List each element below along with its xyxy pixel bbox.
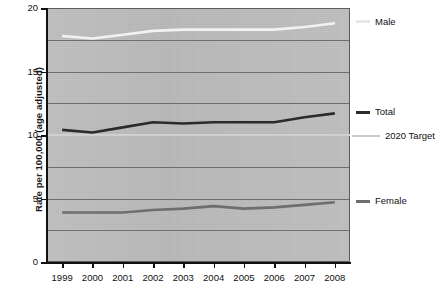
x-tick-mark-2006	[274, 263, 276, 268]
x-tick-mark-2004	[214, 263, 216, 268]
x-tick-mark-2000	[92, 263, 94, 268]
gridline-7-5	[47, 167, 350, 168]
legend-label: 2020 Target	[385, 131, 435, 141]
legend-item-total[interactable]: Total	[356, 107, 395, 117]
legend-label: Male	[375, 17, 396, 27]
y-axis-line	[46, 8, 48, 263]
y-tick-label-10: 10	[0, 129, 38, 140]
x-tick-mark-2001	[123, 263, 125, 268]
plot-border-right	[349, 8, 350, 262]
y-tick-label-20: 20	[0, 2, 38, 13]
x-tick-mark-2003	[183, 263, 185, 268]
legend-item-2020-target[interactable]: 2020 Target	[352, 131, 435, 141]
gridline-2-5	[47, 230, 350, 231]
gridline-10	[47, 135, 350, 136]
legend-swatch-female-icon	[356, 200, 370, 203]
plot-border-top	[47, 8, 350, 9]
gridline-12-5	[47, 103, 350, 104]
legend-label: Total	[375, 107, 395, 117]
gridline-17-5	[47, 40, 350, 41]
y-tick-label-0: 0	[0, 256, 38, 267]
y-tick-label-15: 15	[0, 66, 38, 77]
legend-label: Female	[375, 196, 407, 206]
plot-area	[47, 8, 350, 262]
legend-item-female[interactable]: Female	[356, 196, 407, 206]
legend-item-male[interactable]: Male	[356, 17, 396, 27]
legend-swatch-total-icon	[356, 111, 370, 114]
x-tick-mark-2002	[153, 263, 155, 268]
legend-swatch-male-icon	[356, 20, 370, 23]
x-tick-mark-1999	[62, 263, 64, 268]
x-tick-mark-2005	[244, 263, 246, 268]
gridline-5	[47, 199, 350, 200]
x-tick-mark-2008	[335, 263, 337, 268]
x-tick-label-2008: 2008	[315, 272, 355, 283]
legend-swatch-2020-target-icon	[352, 135, 380, 137]
gridline-15	[47, 72, 350, 73]
x-tick-mark-2007	[305, 263, 307, 268]
y-tick-label-5: 5	[0, 193, 38, 204]
